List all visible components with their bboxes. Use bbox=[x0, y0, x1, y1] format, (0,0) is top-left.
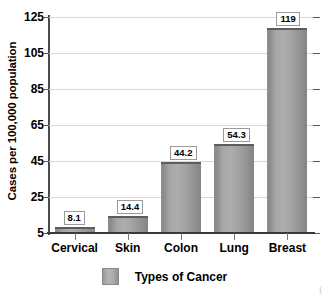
data-label-skin: 14.4 bbox=[117, 200, 144, 214]
y-axis-tick bbox=[43, 17, 49, 18]
y-axis-tick-right bbox=[313, 89, 320, 90]
scan-artifact: ( bbox=[319, 283, 323, 295]
y-axis-tick bbox=[43, 197, 49, 198]
y-axis-tick-labels: 125105856545255 bbox=[0, 17, 44, 233]
legend: Types of Cancer bbox=[0, 268, 329, 285]
data-label-colon: 44.2 bbox=[170, 146, 197, 160]
bar-chart: Cases per 100,000 population 12510585654… bbox=[0, 0, 329, 299]
y-axis-tick-right bbox=[313, 125, 320, 126]
bar-colon[interactable] bbox=[161, 162, 201, 233]
legend-label-types-of-cancer: Types of Cancer bbox=[135, 270, 227, 284]
y-axis-tick bbox=[43, 161, 49, 162]
gridline bbox=[48, 17, 314, 18]
y-axis-tick-label: 45 bbox=[4, 155, 44, 167]
y-axis-tick-right bbox=[313, 17, 320, 18]
x-axis-label-cervical: Cervical bbox=[48, 242, 101, 254]
y-axis-tick-right bbox=[313, 53, 320, 54]
x-axis-label-lung: Lung bbox=[208, 242, 261, 254]
data-label-cervical: 8.1 bbox=[64, 211, 85, 225]
plot-area bbox=[48, 17, 314, 233]
y-axis-tick-label: 105 bbox=[4, 47, 44, 59]
x-axis-tick bbox=[287, 233, 288, 240]
x-axis-tick bbox=[181, 233, 182, 240]
x-axis-tick bbox=[128, 233, 129, 240]
y-axis-tick-label: 25 bbox=[4, 191, 44, 203]
y-axis-tick-label: 65 bbox=[4, 119, 44, 131]
y-axis-tick bbox=[43, 125, 49, 126]
bar-breast[interactable] bbox=[267, 28, 307, 233]
y-axis-tick bbox=[43, 53, 49, 54]
x-axis-label-colon: Colon bbox=[154, 242, 207, 254]
y-axis-tick-right bbox=[313, 161, 320, 162]
x-axis-label-breast: Breast bbox=[261, 242, 314, 254]
y-axis-tick-label: 5 bbox=[4, 227, 44, 239]
legend-swatch-types-of-cancer bbox=[102, 268, 119, 285]
bar-lung[interactable] bbox=[214, 144, 254, 233]
y-axis-tick-right bbox=[313, 197, 320, 198]
bar-skin[interactable] bbox=[108, 216, 148, 233]
x-axis-tick bbox=[75, 233, 76, 240]
data-label-breast: 119 bbox=[276, 12, 299, 26]
y-axis-tick-label: 85 bbox=[4, 83, 44, 95]
x-axis-label-skin: Skin bbox=[101, 242, 154, 254]
y-axis-tick-label: 125 bbox=[4, 11, 44, 23]
data-label-lung: 54.3 bbox=[223, 128, 250, 142]
x-axis-tick bbox=[234, 233, 235, 240]
y-axis-tick bbox=[43, 89, 49, 90]
